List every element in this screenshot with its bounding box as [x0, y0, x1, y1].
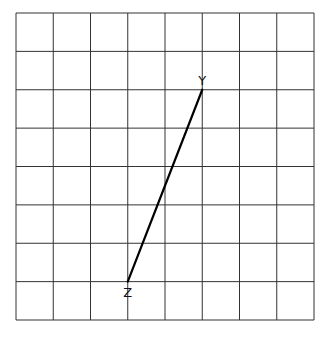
- point-label-y: Y: [197, 73, 206, 88]
- grid-lines: [16, 13, 314, 320]
- point-label-z: Z: [123, 285, 132, 300]
- grid-diagram: Y Z: [0, 0, 335, 343]
